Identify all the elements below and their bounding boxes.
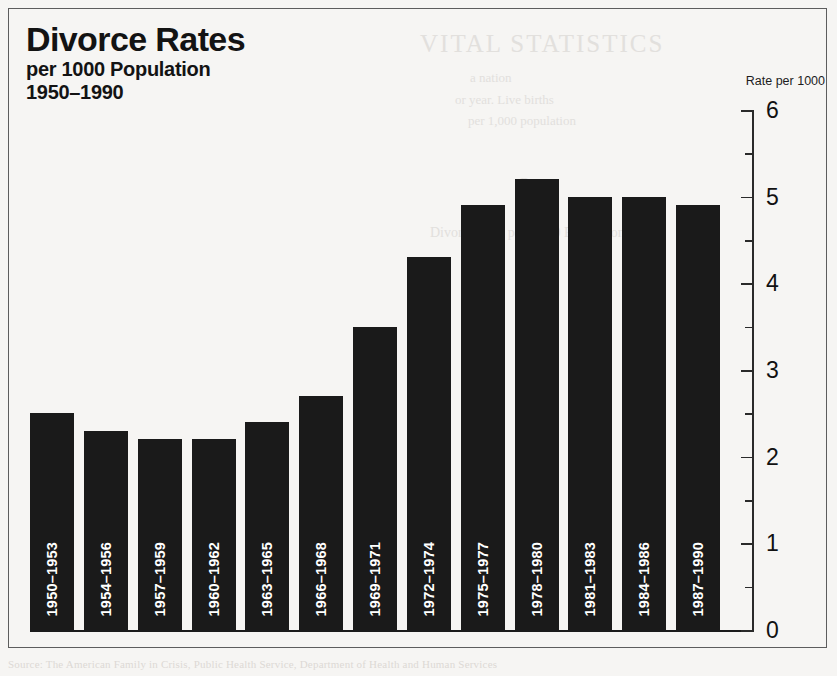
bar[interactable]: 1960–1962 <box>192 439 236 630</box>
bar-slot: 1981–1983 <box>568 110 622 630</box>
bar-slot: 1960–1962 <box>192 110 246 630</box>
chart-title: Divorce Rates <box>26 22 245 57</box>
bar-slot: 1969–1971 <box>353 110 407 630</box>
chart-subtitle: per 1000 Population <box>26 58 245 80</box>
bar-category-label: 1969–1971 <box>367 542 383 616</box>
chart-page: VITAL STATISTICS a nation or year. Live … <box>0 0 837 676</box>
bar[interactable]: 1950–1953 <box>30 413 74 630</box>
bar-category-label: 1987–1990 <box>690 542 706 616</box>
y-axis-major-tick <box>741 630 752 632</box>
bar-series: 1950–19531954–19561957–19591960–19621963… <box>30 110 730 630</box>
bar-category-label: 1963–1965 <box>259 542 275 616</box>
bleed-through-footer: Source: The American Family in Crisis, P… <box>8 658 497 670</box>
bar-category-label: 1957–1959 <box>152 542 168 616</box>
y-axis-major-tick <box>741 457 752 459</box>
y-axis-minor-tick <box>745 500 752 502</box>
bar-slot: 1978–1980 <box>515 110 569 630</box>
bar-slot: 1963–1965 <box>245 110 299 630</box>
y-axis-major-tick <box>741 283 752 285</box>
bar[interactable]: 1966–1968 <box>299 396 343 630</box>
bar[interactable]: 1972–1974 <box>407 257 451 630</box>
y-axis-minor-tick <box>745 587 752 589</box>
bar[interactable]: 1987–1990 <box>676 205 720 630</box>
bar[interactable]: 1981–1983 <box>568 197 612 630</box>
bar[interactable]: 1969–1971 <box>353 327 397 630</box>
bar-category-label: 1960–1962 <box>206 542 222 616</box>
y-axis-tick-label: 5 <box>766 183 779 210</box>
bar-category-label: 1984–1986 <box>636 542 652 616</box>
bar-category-label: 1954–1956 <box>98 542 114 616</box>
bar[interactable]: 1963–1965 <box>245 422 289 630</box>
bar-category-label: 1972–1974 <box>421 542 437 616</box>
bar-slot: 1984–1986 <box>622 110 676 630</box>
y-axis-major-tick <box>741 110 752 112</box>
bar-slot: 1950–1953 <box>30 110 84 630</box>
y-axis-minor-tick <box>745 327 752 329</box>
y-axis-major-tick <box>741 543 752 545</box>
bar[interactable]: 1954–1956 <box>84 431 128 630</box>
bar-category-label: 1966–1968 <box>313 542 329 616</box>
bar[interactable]: 1975–1977 <box>461 205 505 630</box>
y-axis-minor-tick <box>745 153 752 155</box>
bar[interactable]: 1984–1986 <box>622 197 666 630</box>
bar-slot: 1972–1974 <box>407 110 461 630</box>
y-axis-tick-label: 4 <box>766 270 779 297</box>
chart-period: 1950–1990 <box>26 81 245 103</box>
bar-slot: 1957–1959 <box>138 110 192 630</box>
bar-slot: 1987–1990 <box>676 110 730 630</box>
x-axis-baseline <box>30 630 752 632</box>
bar-category-label: 1950–1953 <box>44 542 60 616</box>
bar-slot: 1975–1977 <box>461 110 515 630</box>
y-axis-minor-tick <box>745 413 752 415</box>
y-axis-tick-label: 3 <box>766 357 779 384</box>
y-axis-major-tick <box>741 370 752 372</box>
y-axis-minor-tick <box>745 240 752 242</box>
title-block: Divorce Rates per 1000 Population 1950–1… <box>26 22 245 103</box>
bar-category-label: 1981–1983 <box>582 542 598 616</box>
bar[interactable]: 1957–1959 <box>138 439 182 630</box>
y-axis-tick-label: 2 <box>766 443 779 470</box>
bar-slot: 1954–1956 <box>84 110 138 630</box>
bar-slot: 1966–1968 <box>299 110 353 630</box>
y-axis-tick-label: 1 <box>766 530 779 557</box>
y-axis-major-tick <box>741 197 752 199</box>
plot-area: 1950–19531954–19561957–19591960–19621963… <box>30 110 752 632</box>
y-axis-tick-label: 6 <box>766 97 779 124</box>
y-axis: 0123456 <box>752 110 754 632</box>
y-axis-tick-label: 0 <box>766 617 779 644</box>
bar[interactable]: 1978–1980 <box>515 179 559 630</box>
bar-category-label: 1975–1977 <box>475 542 491 616</box>
bar-category-label: 1978–1980 <box>529 542 545 616</box>
y-axis-caption: Rate per 1000 <box>746 74 825 88</box>
